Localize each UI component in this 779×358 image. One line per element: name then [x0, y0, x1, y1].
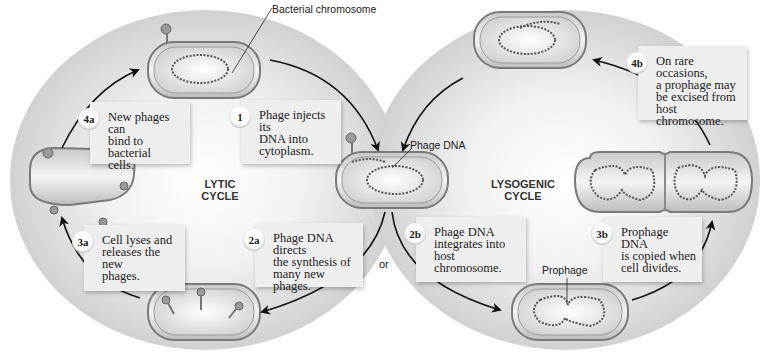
step-2b-box: 2b Phage DNA integrates into host chromo…: [416, 217, 526, 282]
step-4a-badge: 4a: [78, 108, 100, 130]
cell-new-phages: [148, 284, 260, 340]
cell-excised: [474, 12, 586, 68]
step-3a-badge: 3a: [72, 231, 94, 253]
step-2a-badge: 2a: [243, 229, 265, 251]
step-1-badge: 1: [229, 106, 251, 128]
phage-life-cycle-diagram: Bacterial chromosome Phage DNA Prophage …: [0, 0, 779, 358]
step-4b-text: On rare occasions, a prophage may be exc…: [656, 55, 741, 127]
step-2b-badge: 2b: [404, 223, 426, 245]
label-lytic-cycle: LYTIC CYCLE: [190, 178, 250, 202]
phage-icon: [197, 288, 205, 296]
cell-prophage: [512, 284, 628, 340]
label-phage-dna: Phage DNA: [410, 139, 465, 151]
step-1-text: Phage injects its DNA into cytoplasm.: [259, 109, 335, 157]
cell-dividing: [575, 152, 752, 212]
phage-icon: [235, 302, 243, 310]
cell-initial: [148, 24, 260, 98]
phage-icon: [120, 182, 128, 190]
label-prophage: Prophage: [542, 264, 588, 276]
label-lysogenic-cycle: LYSOGENIC CYCLE: [483, 178, 563, 202]
step-4a-box: 4a New phages can bind to bacterial cell…: [90, 102, 190, 164]
phage-icon: [346, 133, 356, 143]
step-4a-text: New phages can bind to bacterial cells.: [108, 111, 184, 171]
phage-icon: [50, 206, 58, 214]
step-4b-box: 4b On rare occasions, a prophage may be …: [638, 46, 747, 120]
step-2a-box: 2a Phage DNA directs the synthesis of ma…: [255, 223, 363, 287]
step-3a-text: Cell lyses and releases the new phages.: [102, 234, 179, 282]
step-3b-badge: 3b: [591, 223, 613, 245]
step-3b-text: Prophage DNA is copied when cell divides…: [621, 226, 696, 274]
step-3a-box: 3a Cell lyses and releases the new phage…: [84, 225, 185, 291]
step-1-box: 1 Phage injects its DNA into cytoplasm.: [241, 100, 341, 164]
step-2b-text: Phage DNA integrates into host chromosom…: [434, 226, 520, 274]
phage-icon: [43, 148, 53, 158]
label-or: or: [379, 258, 389, 270]
step-3b-box: 3b Prophage DNA is copied when cell divi…: [603, 217, 702, 282]
step-2a-text: Phage DNA directs the synthesis of many …: [273, 232, 357, 292]
label-bacterial-chromosome: Bacterial chromosome: [272, 3, 376, 15]
phage-icon: [161, 24, 171, 34]
step-4b-badge: 4b: [626, 52, 648, 74]
